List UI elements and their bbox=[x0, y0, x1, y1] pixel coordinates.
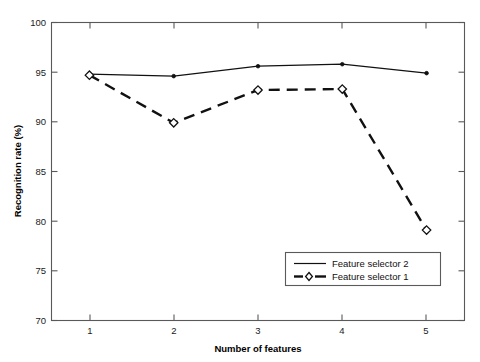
x-tick-label-5: 5 bbox=[423, 325, 428, 336]
series-layer bbox=[85, 62, 431, 234]
data-point-0-3 bbox=[340, 62, 344, 66]
line-chart: 100 95 90 85 80 75 70 1 2 3 4 5 Number o… bbox=[0, 0, 480, 362]
chart-figure: 100 95 90 85 80 75 70 1 2 3 4 5 Number o… bbox=[0, 0, 480, 362]
y-tick-label-80: 80 bbox=[35, 216, 46, 227]
y-tick-label-95: 95 bbox=[35, 67, 46, 78]
legend-label-0: Feature selector 2 bbox=[332, 258, 409, 269]
y-tick-label-100: 100 bbox=[30, 17, 46, 28]
series-line-1 bbox=[89, 75, 426, 230]
y-tick-label-85: 85 bbox=[35, 166, 46, 177]
x-tick-label-1: 1 bbox=[87, 325, 92, 336]
y-axis-title: Recognition rate (%) bbox=[12, 125, 23, 217]
data-point-1-4 bbox=[422, 226, 430, 234]
x-axis-title: Number of features bbox=[214, 343, 301, 354]
data-point-0-2 bbox=[256, 64, 260, 68]
x-tick-label-3: 3 bbox=[255, 325, 260, 336]
data-point-1-2 bbox=[254, 86, 262, 94]
data-point-0-1 bbox=[172, 74, 176, 78]
y-tick-label-70: 70 bbox=[35, 315, 46, 326]
data-point-0-4 bbox=[425, 71, 429, 75]
x-tick-label-4: 4 bbox=[339, 325, 344, 336]
x-tick-label-2: 2 bbox=[171, 325, 176, 336]
legend: Feature selector 2 Feature selector 1 bbox=[286, 253, 441, 286]
legend-label-1: Feature selector 1 bbox=[332, 271, 409, 282]
y-tick-label-90: 90 bbox=[35, 116, 46, 127]
y-tick-label-75: 75 bbox=[35, 265, 46, 276]
